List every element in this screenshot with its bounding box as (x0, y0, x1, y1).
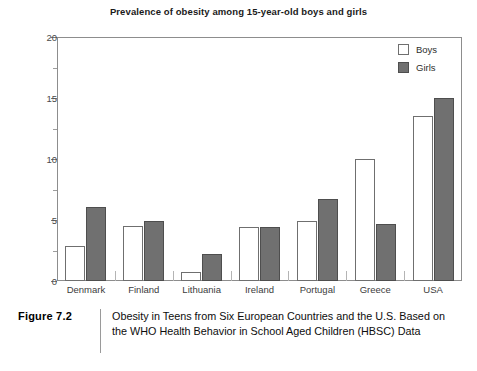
x-tick-label-ireland: Ireland (245, 284, 274, 295)
bar-denmark-boys (65, 246, 85, 281)
bar-usa-boys (413, 116, 433, 281)
category-separator (231, 271, 232, 281)
y-tick-label: 10 (31, 154, 57, 165)
bar-denmark-girls (86, 207, 106, 281)
bar-portugal-boys (297, 221, 317, 281)
x-axis: DenmarkFinlandLithuaniaIrelandPortugalGr… (57, 284, 462, 302)
legend-label: Girls (416, 62, 436, 73)
bar-ireland-boys (239, 227, 259, 281)
x-tick-label-usa: USA (423, 284, 443, 295)
bar-ireland-girls (260, 227, 280, 281)
category-separator (115, 271, 116, 281)
bar-finland-girls (144, 221, 164, 281)
x-tick-label-portugal: Portugal (300, 284, 335, 295)
x-tick-label-finland: Finland (128, 284, 159, 295)
bar-lithuania-girls (202, 254, 222, 281)
category-separator (346, 271, 347, 281)
category-separator (404, 271, 405, 281)
bar-lithuania-boys (181, 272, 201, 281)
legend-swatch-girls-icon (398, 62, 409, 73)
bar-greece-boys (355, 159, 375, 281)
bar-finland-boys (123, 226, 143, 281)
legend-swatch-boys-icon (398, 44, 409, 55)
y-axis: 05101520 (20, 37, 57, 281)
category-separator (173, 271, 174, 281)
figure-chart: Prevalence of obesity among 15-year-old … (0, 0, 477, 300)
chart-title: Prevalence of obesity among 15-year-old … (0, 6, 477, 17)
y-tick-label: 0 (31, 276, 57, 287)
y-tick-label: 5 (31, 215, 57, 226)
bar-greece-girls (376, 224, 396, 281)
legend-item-boys: Boys (398, 41, 468, 57)
caption-text: Obesity in Teens from Six European Count… (112, 309, 477, 338)
x-tick-label-denmark: Denmark (67, 284, 106, 295)
y-tick-label: 15 (31, 93, 57, 104)
caption-divider (100, 309, 101, 353)
bar-usa-girls (434, 98, 454, 281)
bar-portugal-girls (318, 199, 338, 281)
chart-legend: BoysGirls (398, 41, 468, 77)
legend-label: Boys (416, 44, 437, 55)
legend-item-girls: Girls (398, 59, 468, 75)
figure-number: Figure 7.2 (0, 309, 100, 322)
x-tick-label-greece: Greece (360, 284, 391, 295)
category-separator (288, 271, 289, 281)
y-tick-label: 20 (31, 32, 57, 43)
x-tick-label-lithuania: Lithuania (182, 284, 221, 295)
page-tail-text (18, 360, 458, 370)
figure-caption: Figure 7.2 Obesity in Teens from Six Eur… (0, 309, 477, 353)
